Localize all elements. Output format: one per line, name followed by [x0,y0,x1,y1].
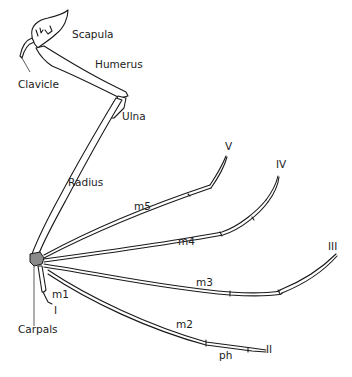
label-ulna: Ulna [122,110,146,122]
carpals [30,252,44,266]
digit-3 [44,254,337,296]
label-scapula: Scapula [72,28,114,40]
label-m2: m2 [176,318,193,330]
digit-4 [44,176,279,262]
label-m1: m1 [52,288,69,300]
label-m5: m5 [134,200,151,212]
label-digit-4: IV [276,158,287,170]
clavicle [20,38,34,58]
wing-skeleton-diagram: Scapula Humerus Clavicle Ulna Radius m5 … [0,0,352,377]
clavicle-leader [22,58,30,72]
scapula [32,10,68,48]
label-radius: Radius [68,176,103,188]
label-digit-1: I [54,304,57,316]
label-clavicle: Clavicle [18,78,59,90]
label-humerus: Humerus [95,58,143,70]
label-m3: m3 [196,276,213,288]
label-digit-5: V [225,140,233,152]
humerus [36,46,128,98]
label-ph: ph [219,349,232,361]
label-digit-2: II [266,343,272,355]
label-digit-3: III [328,240,337,252]
label-m4: m4 [178,235,195,247]
label-carpals: Carpals [18,323,58,335]
